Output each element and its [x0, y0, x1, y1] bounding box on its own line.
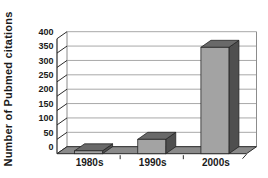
- y-tick-label-0: 0: [48, 142, 53, 152]
- tick-connector-250: [57, 75, 67, 82]
- bar-front-face: [201, 47, 229, 153]
- x-category-label-2000s: 2000s: [202, 157, 230, 168]
- y-tick-label-50: 50: [43, 128, 53, 138]
- bar-side-face: [229, 40, 239, 153]
- pubmed-citations-chart: Number of Pubmed citations 0501001502002…: [0, 0, 268, 178]
- tick-connector-400: [57, 32, 67, 39]
- y-tick-label-200: 200: [38, 84, 53, 94]
- y-tick-label-150: 150: [38, 99, 53, 109]
- y-tick-label-100: 100: [38, 113, 53, 123]
- tick-connector-50: [57, 132, 67, 139]
- y-tick-label-250: 250: [38, 70, 53, 80]
- tick-connector-200: [57, 89, 67, 96]
- chart-svg: 0501001502002503003504001980s1990s2000s: [0, 0, 268, 178]
- y-tick-label-300: 300: [38, 56, 53, 66]
- tick-connector-300: [57, 60, 67, 67]
- bar-front-face: [75, 151, 103, 154]
- category-tick: [243, 154, 247, 159]
- bar-front-face: [138, 139, 166, 153]
- y-tick-label-350: 350: [38, 41, 53, 51]
- tick-connector-350: [57, 46, 67, 53]
- bar-1990s: [138, 132, 176, 153]
- x-category-label-1990s: 1990s: [139, 157, 167, 168]
- bar-2000s: [201, 40, 239, 153]
- tick-connector-100: [57, 118, 67, 125]
- tick-connector-150: [57, 104, 67, 111]
- x-category-label-1980s: 1980s: [76, 157, 104, 168]
- y-tick-label-400: 400: [38, 27, 53, 37]
